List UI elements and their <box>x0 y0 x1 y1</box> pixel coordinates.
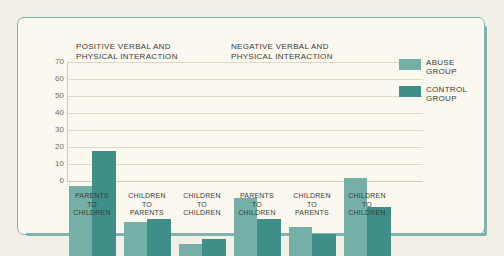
y-axis-line <box>67 62 68 182</box>
bar-negative-children-to-parents-abuse <box>289 227 312 256</box>
legend-swatch-abuse-icon <box>399 59 421 70</box>
cat-label-negative-children-to-children: CHILDREN TO CHILDREN <box>337 192 397 218</box>
y-tick-label-10: 10 <box>48 160 64 168</box>
legend-item-abuse: ABUSE GROUP <box>399 58 481 76</box>
bar-positive-children-to-parents-abuse <box>124 222 147 256</box>
gridline-50 <box>68 96 423 97</box>
cat-label-positive-children-to-parents: CHILDREN TO PARENTS <box>117 192 177 218</box>
y-axis: 70 60 50 40 30 20 10 0 <box>46 0 64 256</box>
cat-label-negative-parents-to-children: PARENTS TO CHILDREN <box>227 192 287 218</box>
bar-positive-children-to-children-abuse <box>179 244 202 256</box>
bar-negative-children-to-parents-control <box>312 234 336 256</box>
gridline-60 <box>68 79 423 80</box>
legend-swatch-control-icon <box>399 86 421 97</box>
panel-title-positive: POSITIVE VERBAL AND PHYSICAL INTERACTION <box>76 42 178 61</box>
legend-label-control: CONTROL GROUP <box>426 85 467 103</box>
panel-title-negative: NEGATIVE VERBAL AND PHYSICAL INTERACTION <box>231 42 333 61</box>
plot-area: POSITIVE VERBAL AND PHYSICAL INTERACTION… <box>0 0 504 256</box>
y-tick-label-20: 20 <box>48 143 64 151</box>
cat-label-negative-children-to-parents: CHILDREN TO PARENTS <box>282 192 342 218</box>
bar-positive-children-to-children-control <box>202 239 226 256</box>
gridline-40 <box>68 113 423 114</box>
chart-legend: ABUSE GROUP CONTROL GROUP <box>399 58 481 112</box>
cat-label-positive-children-to-children: CHILDREN TO CHILDREN <box>172 192 232 218</box>
legend-label-abuse: ABUSE GROUP <box>426 58 457 76</box>
y-tick-label-60: 60 <box>48 75 64 83</box>
bar-negative-parents-to-children-control <box>257 219 281 256</box>
y-tick-label-70: 70 <box>48 58 64 66</box>
y-tick-label-40: 40 <box>48 109 64 117</box>
gridline-30 <box>68 130 423 131</box>
cat-label-positive-parents-to-children: PARENTS TO CHILDREN <box>62 192 122 218</box>
gridline-70 <box>68 62 423 63</box>
y-tick-label-30: 30 <box>48 126 64 134</box>
legend-item-control: CONTROL GROUP <box>399 85 481 103</box>
y-tick-label-0: 0 <box>48 177 64 185</box>
chart-figure: POSITIVE VERBAL AND PHYSICAL INTERACTION… <box>0 0 504 256</box>
y-tick-label-50: 50 <box>48 92 64 100</box>
bar-positive-children-to-parents-control <box>147 219 171 256</box>
